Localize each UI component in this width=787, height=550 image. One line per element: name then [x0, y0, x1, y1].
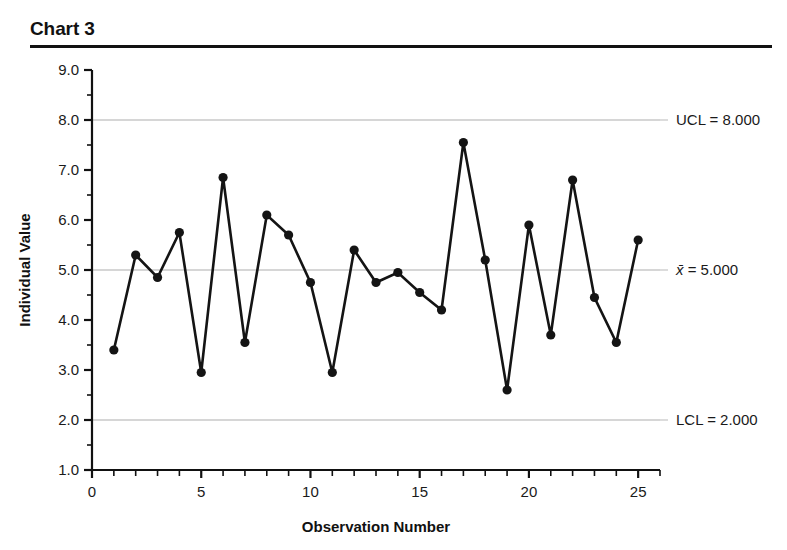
x-tick-label: 5: [197, 483, 205, 500]
x-tick-labels: 0510152025: [88, 483, 647, 500]
chart-svg: 1.02.03.04.05.06.07.08.09.0 0510152025 U…: [0, 52, 787, 550]
data-point: [502, 385, 511, 394]
data-series: [109, 138, 643, 395]
y-tick-label: 2.0: [58, 411, 79, 428]
data-point: [524, 220, 533, 229]
limit-label-UCL: UCL = 8.000: [676, 111, 760, 128]
y-tick-label: 1.0: [58, 461, 79, 478]
data-markers: [109, 138, 643, 395]
data-point: [481, 255, 490, 264]
x-tick-label: 20: [521, 483, 538, 500]
axis-ticks: [84, 70, 660, 478]
data-point: [612, 338, 621, 347]
data-point: [590, 293, 599, 302]
data-point: [197, 368, 206, 377]
data-point: [262, 210, 271, 219]
y-axis-title: Individual Value: [16, 213, 33, 326]
series-line: [114, 143, 638, 391]
data-point: [175, 228, 184, 237]
data-point: [306, 278, 315, 287]
y-tick-label: 3.0: [58, 361, 79, 378]
data-point: [109, 345, 118, 354]
limit-label-center: x̄ = 5.000: [675, 261, 738, 278]
data-point: [218, 173, 227, 182]
title-divider: [30, 45, 772, 48]
gridlines: [92, 120, 660, 420]
page-title: Chart 3: [30, 18, 772, 40]
y-tick-label: 8.0: [58, 111, 79, 128]
data-point: [459, 138, 468, 147]
y-tick-label: 5.0: [58, 261, 79, 278]
data-point: [284, 230, 293, 239]
x-tick-label: 25: [630, 483, 647, 500]
data-point: [371, 278, 380, 287]
x-tick-label: 15: [411, 483, 428, 500]
data-point: [131, 250, 140, 259]
x-tick-label: 0: [88, 483, 96, 500]
data-point: [415, 288, 424, 297]
data-point: [153, 273, 162, 282]
title-block: Chart 3: [30, 18, 772, 48]
control-chart: 1.02.03.04.05.06.07.08.09.0 0510152025 U…: [0, 52, 787, 550]
data-point: [393, 268, 402, 277]
limit-label-LCL: LCL = 2.000: [676, 411, 758, 428]
data-point: [568, 175, 577, 184]
data-point: [437, 305, 446, 314]
data-point: [350, 245, 359, 254]
y-tick-label: 6.0: [58, 211, 79, 228]
y-tick-label: 9.0: [58, 61, 79, 78]
y-tick-label: 7.0: [58, 161, 79, 178]
y-tick-labels: 1.02.03.04.05.06.07.08.09.0: [58, 61, 79, 478]
data-point: [546, 330, 555, 339]
data-point: [240, 338, 249, 347]
data-point: [328, 368, 337, 377]
y-tick-label: 4.0: [58, 311, 79, 328]
chart-page: Chart 3 1.02.03.04.05.06.07.08.09.0 0510…: [0, 0, 787, 550]
x-tick-label: 10: [302, 483, 319, 500]
control-limit-labels: UCL = 8.000x̄ = 5.000LCL = 2.000: [660, 111, 760, 428]
x-axis-title: Observation Number: [302, 518, 451, 535]
data-point: [634, 235, 643, 244]
